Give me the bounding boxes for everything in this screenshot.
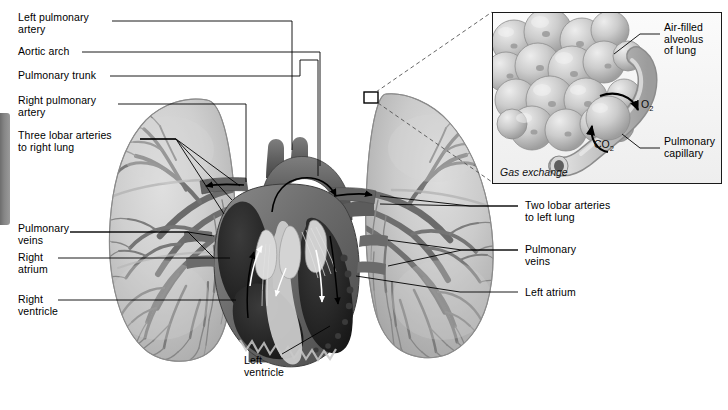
magnified-region-marker xyxy=(364,92,378,103)
label-right-atrium: Right atrium xyxy=(18,252,48,275)
label-two-lobar-arteries: Two lobar arteries to left lung xyxy=(525,200,610,223)
label-right-pulmonary-artery: Right pulmonary artery xyxy=(18,95,96,118)
label-pulmonary-veins-left: Pulmonary veins xyxy=(525,244,576,267)
label-pulmonary-veins-right: Pulmonary veins xyxy=(18,223,69,246)
label-left-ventricle: Left ventricle xyxy=(244,355,284,378)
bottom-caption xyxy=(28,401,688,410)
inset-caption-gas-exchange: Gas exchange xyxy=(500,166,568,178)
label-left-pulmonary-artery: Left pulmonary artery xyxy=(18,12,89,35)
page-edge-tab xyxy=(0,113,10,225)
label-pulmonary-trunk: Pulmonary trunk xyxy=(18,70,96,82)
label-pulmonary-capillary: Pulmonary capillary xyxy=(664,136,715,159)
label-right-ventricle: Right ventricle xyxy=(18,294,58,317)
label-aortic-arch: Aortic arch xyxy=(18,46,69,58)
label-carbon-dioxide: CO2 xyxy=(594,138,614,153)
left-lung-illustration xyxy=(362,94,507,366)
label-three-lobar-arteries: Three lobar arteries to right lung xyxy=(18,130,112,153)
label-oxygen: O2 xyxy=(641,98,653,113)
label-air-filled-alveolus: Air-filled alveolus of lung xyxy=(664,22,703,57)
label-left-atrium: Left atrium xyxy=(525,287,576,299)
pulmonary-circulation-figure: Left pulmonary artery Aortic arch Pulmon… xyxy=(0,0,728,410)
